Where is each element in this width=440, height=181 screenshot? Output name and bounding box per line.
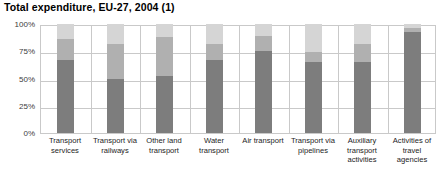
- bar-3[interactable]: [156, 24, 173, 133]
- bar-1[interactable]: [57, 24, 74, 133]
- bar-4[interactable]: [206, 24, 223, 133]
- bar-segment-segment-top: [354, 24, 371, 44]
- bar-segment-segment-top: [255, 24, 272, 36]
- bar-segment-segment-top: [206, 24, 223, 44]
- bar-segment-segment-top: [156, 24, 173, 37]
- bar-segment-segment-middle: [305, 52, 322, 62]
- chart-title: Total expenditure, EU-27, 2004 (1): [4, 1, 175, 13]
- x-axis-label-8: Activities of travel agencies: [387, 136, 437, 165]
- bar-segment-segment-bottom: [354, 62, 371, 133]
- bar-segment-segment-top: [57, 24, 74, 39]
- y-axis-tick: 25%: [19, 103, 35, 111]
- plot-wrapper: 100%75%50%25%0%: [0, 21, 440, 137]
- bar-segment-segment-middle: [156, 37, 173, 76]
- bar-segment-segment-bottom: [156, 76, 173, 133]
- x-axis-label-1: Transport services: [40, 136, 90, 155]
- x-axis-label-3: Other land transport: [139, 136, 189, 155]
- bar-segment-segment-middle: [354, 44, 371, 63]
- chart-container: Total expenditure, EU-27, 2004 (1) 100%7…: [0, 0, 440, 181]
- bars-layer: [41, 26, 435, 133]
- bar-segment-segment-bottom: [305, 62, 322, 133]
- bar-6[interactable]: [305, 24, 322, 133]
- bar-segment-segment-middle: [57, 39, 74, 60]
- plot-area: [40, 25, 436, 134]
- x-axis-label-2: Transport via railways: [90, 136, 140, 155]
- x-axis-label-5: Air transport: [238, 136, 288, 146]
- x-axis-label-7: Auxiliary transport activities: [337, 136, 387, 165]
- bar-segment-segment-bottom: [206, 60, 223, 133]
- bar-2[interactable]: [107, 24, 124, 133]
- bar-segment-segment-bottom: [107, 79, 124, 134]
- y-axis-tick: 0%: [23, 130, 35, 138]
- x-axis-label-4: Water transport: [189, 136, 239, 155]
- y-axis-tick: 100%: [15, 21, 35, 29]
- bar-segment-segment-middle: [255, 36, 272, 51]
- bar-8[interactable]: [404, 24, 421, 133]
- y-axis-tick: 75%: [19, 48, 35, 56]
- x-axis-labels: Transport servicesTransport via railways…: [40, 136, 436, 181]
- bar-segment-segment-middle: [206, 44, 223, 60]
- bar-segment-segment-top: [107, 24, 124, 44]
- bar-7[interactable]: [354, 24, 371, 133]
- x-axis-label-6: Transport via pipelines: [288, 136, 338, 155]
- y-axis: 100%75%50%25%0%: [0, 21, 38, 137]
- bar-5[interactable]: [255, 24, 272, 133]
- bar-segment-segment-bottom: [255, 51, 272, 133]
- bar-segment-segment-top: [305, 24, 322, 52]
- y-axis-tick: 50%: [19, 76, 35, 84]
- bar-segment-segment-bottom: [57, 60, 74, 133]
- bar-segment-segment-bottom: [404, 32, 421, 133]
- bar-segment-segment-middle: [107, 44, 124, 79]
